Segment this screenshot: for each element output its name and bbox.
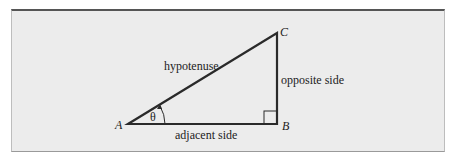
- vertex-c-label: C: [280, 25, 289, 39]
- right-angle-marker: [264, 111, 277, 124]
- opposite-side-label: opposite side: [281, 73, 344, 87]
- adjacent-side-label: adjacent side: [175, 128, 237, 142]
- triangle-diagram: A B C θ hypotenuse opposite side adjacen…: [0, 0, 455, 163]
- angle-theta-label: θ: [150, 110, 156, 124]
- vertex-b-label: B: [282, 119, 290, 133]
- hypotenuse-label: hypotenuse: [164, 59, 219, 73]
- vertex-a-label: A: [114, 118, 123, 132]
